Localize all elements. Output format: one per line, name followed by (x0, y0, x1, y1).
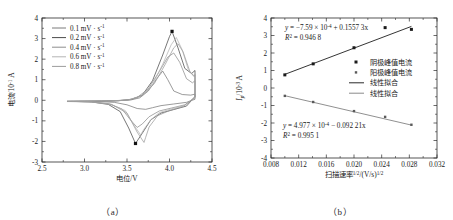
x-tick-label: 0.016 (318, 161, 335, 169)
data-point-0-3 (384, 26, 387, 29)
r2-value-b: = 0.995 1 (290, 132, 320, 140)
legend-sup-4: -1 (100, 62, 105, 68)
y-tick-label: 4 (263, 15, 267, 23)
figure-container: 2.53.03.54.04.5-3-2-1012340.1 mV · s-10.… (0, 0, 453, 220)
y-axis-label-text: Ip/10-3 A (235, 75, 245, 102)
x-tick-label: 0.032 (429, 161, 446, 169)
anodic-peak-marker (170, 30, 173, 33)
y-tick-label: 1 (263, 67, 267, 75)
y-tick-label: 3 (263, 32, 267, 40)
legend-sup-0: -1 (100, 23, 105, 29)
equation-top: y = −7.59 × 10-4 + 0.1557 3x (284, 23, 368, 32)
y-tick-label: -2 (261, 120, 267, 128)
plot-frame (42, 18, 212, 162)
legend-swatch-1 (355, 71, 357, 73)
y-tick-label: 4 (34, 15, 38, 23)
legend-sup-1: -1 (100, 33, 105, 39)
y-tick-label: -1 (32, 117, 38, 125)
cv-curve-0 (68, 71, 196, 109)
y-axis-label-text: 电流/10-1 A (7, 72, 16, 108)
legend-label-1: 0.2 mV · s-1 (70, 33, 105, 42)
x-axis-label: 扫描速率1/2/(V/s)1/2 (325, 170, 384, 179)
y-tick-label: -1 (261, 102, 267, 110)
fit-line-1 (285, 96, 412, 125)
panel-b: 0.0080.0120.0160.0200.0240.0280.032-4-3-… (227, 0, 453, 220)
x-axis-label: 电位/V (116, 174, 138, 183)
panel-a-caption: （a） (0, 205, 226, 218)
panel-a-plot: 2.53.03.54.04.5-3-2-1012340.1 mV · s-10.… (0, 0, 226, 220)
cathodic-peak-marker (134, 142, 137, 145)
y-axis-label: Ip/10-3 A (235, 75, 245, 102)
data-point-0-0 (283, 73, 286, 76)
x-tick-label: 0.028 (401, 161, 418, 169)
equation-top-r2: R2 = 0.946 8 (284, 33, 322, 42)
y-tick-label: 1 (34, 76, 38, 84)
legend-label-3: 0.6 mV · s-1 (70, 52, 105, 61)
y-tick-label: 0 (34, 97, 38, 105)
legend-swatch-0 (355, 61, 358, 64)
y-axis-unit: A (7, 72, 16, 80)
data-point-1-2 (353, 110, 355, 112)
x-tick-label: 2.5 (38, 165, 47, 173)
legend-label-3: 线性拟合 (370, 89, 398, 98)
data-point-0-4 (410, 28, 413, 31)
equation-bottom-r2: R2 = 0.995 1 (282, 131, 320, 140)
x-axis-sup2: 1/2 (377, 170, 384, 176)
data-point-1-4 (410, 124, 412, 126)
y-tick-label: -2 (32, 138, 38, 146)
y-axis-mid: /10 (235, 86, 244, 96)
panel-b-caption: （b） (227, 205, 453, 218)
legend-label-1: 阳极峰值电流 (370, 68, 412, 77)
data-point-1-3 (384, 116, 386, 118)
x-tick-label: 3.0 (80, 165, 89, 173)
x-tick-label: 0.020 (346, 161, 363, 169)
legend-sup-2: -1 (100, 42, 105, 48)
x-tick-label: 4.5 (208, 165, 217, 173)
equation-bottom: y = 4.977 × 10-4 − 0.092 21x (282, 121, 366, 130)
y-tick-label: 2 (263, 50, 267, 58)
eq-bottom-y: y (282, 122, 287, 130)
x-tick-label: 0.024 (374, 161, 391, 169)
y-tick-label: -3 (32, 159, 38, 167)
y-tick-label: 0 (263, 85, 267, 93)
y-tick-label: -4 (261, 155, 267, 163)
legend-label-4: 0.8 mV · s-1 (70, 62, 105, 71)
legend-label-2: 线性拟合 (370, 78, 398, 87)
x-tick-label: 3.5 (123, 165, 132, 173)
x-tick-label: 0.012 (291, 161, 308, 169)
data-point-0-2 (353, 46, 356, 49)
r2-value: = 0.946 8 (292, 34, 322, 42)
x-tick-label: 4.0 (165, 165, 174, 173)
data-point-1-1 (312, 101, 314, 103)
legend-sup-3: -1 (100, 52, 105, 58)
eq-top-y: y (284, 24, 289, 32)
legend-label-0: 0.1 mV · s-1 (70, 23, 105, 32)
y-tick-label: 3 (34, 35, 38, 43)
panel-a: 2.53.03.54.04.5-3-2-1012340.1 mV · s-10.… (0, 0, 226, 220)
legend-label-0: 阴极峰值电流 (370, 58, 412, 67)
y-axis-label: 电流/10-1 A (7, 72, 16, 108)
y-tick-label: 2 (34, 56, 38, 64)
legend-label-2: 0.4 mV · s-1 (70, 42, 105, 51)
data-point-0-1 (312, 62, 315, 65)
y-axis-unit: A (235, 75, 244, 82)
eq-top-tail: + 0.1557 3x (332, 24, 369, 32)
data-point-1-0 (284, 95, 286, 97)
x-axis-mid: /(V/s) (359, 170, 377, 179)
eq-bottom-tail: − 0.092 21x (329, 122, 366, 130)
panel-b-plot: 0.0080.0120.0160.0200.0240.0280.032-4-3-… (227, 0, 453, 220)
y-tick-label: -3 (261, 137, 267, 145)
